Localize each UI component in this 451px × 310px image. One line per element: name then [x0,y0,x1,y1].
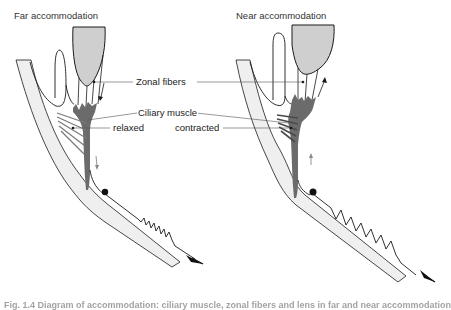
tension-arrow-up-icon [318,77,327,97]
label-ciliary-muscle: Ciliary muscle [137,107,198,118]
near-accommodation-panel [236,25,435,282]
panel-title-far: Far accommodation [14,10,98,21]
figure-caption: Fig. 1.4 Diagram of accommodation: cilia… [4,300,451,310]
muscle-arrow-down-icon [95,156,99,170]
lens [73,27,105,86]
label-relaxed: relaxed [112,122,145,133]
lens [292,25,334,74]
muscle-arrow-up-icon [309,153,313,165]
label-contracted: contracted [174,122,220,133]
far-accommodation-panel [16,27,203,267]
panel-title-near: Near accommodation [236,10,326,21]
label-zonal-fibers: Zonal fibers [135,76,187,87]
elastic-spring-stretched [313,194,416,275]
sclera-wall [236,60,406,282]
sclera-wall [16,60,180,267]
